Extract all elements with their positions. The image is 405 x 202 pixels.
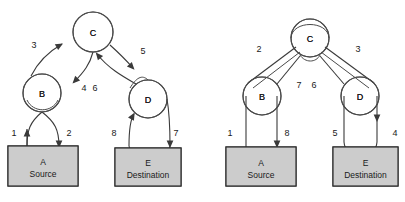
left-edge-number-4: 4: [81, 83, 86, 93]
right-diagram-node-top-sublabel-E: Destination: [344, 170, 387, 180]
right-diagram-node-top-label-A: A: [258, 158, 264, 168]
left-edge-3-arrowhead: [55, 43, 63, 50]
right-edge-number-4: 4: [392, 128, 397, 138]
left-diagram-node-top-sublabel-A: Source: [30, 169, 57, 179]
right-edge-number-1: 1: [227, 128, 232, 138]
left-diagram-node-top-label-A: A: [40, 157, 46, 167]
right-diagram-node-top-label-B: B: [259, 92, 265, 102]
right-edge-number-7: 7: [296, 80, 301, 90]
left-diagram-node-top-label-C: C: [90, 28, 97, 38]
left-diagram-node-top-label-B: B: [39, 89, 45, 99]
left-edge-1-path: [27, 112, 42, 146]
right-edge-number-8: 8: [284, 128, 289, 138]
figure-canvas: ASourceBCDEDestinationASourceBCDEDestina…: [0, 0, 405, 202]
right-edge-2-path-b: [253, 52, 300, 88]
left-diagram-node-top-sublabel-E: Destination: [127, 170, 170, 180]
left-edge-number-1: 1: [11, 128, 16, 138]
right-edge-3-path: [325, 47, 374, 83]
left-edge-7-path: [167, 99, 170, 146]
left-edge-number-5: 5: [140, 46, 145, 56]
left-edge-6-path: [97, 54, 136, 84]
left-edge-number-2: 2: [66, 128, 71, 138]
right-edge-4-arrowhead: [374, 115, 381, 123]
right-edge-number-2: 2: [256, 44, 261, 54]
right-edge-number-3: 3: [355, 44, 360, 54]
right-diagram-node-top-label-C: C: [307, 34, 314, 44]
traversal-diagram-svg: ASourceBCDEDestinationASourceBCDEDestina…: [0, 0, 405, 202]
right-edge-2-path: [248, 47, 296, 83]
left-edge-number-6: 6: [92, 83, 97, 93]
right-edge-3-path-b: [321, 52, 369, 88]
right-diagram-node-top-label-D: D: [357, 92, 364, 102]
left-edge-number-8: 8: [111, 128, 116, 138]
right-diagram-node-top-sublabel-A: Source: [248, 170, 275, 180]
left-edge-number-7: 7: [173, 128, 178, 138]
left-edge-number-3: 3: [31, 40, 36, 50]
left-diagram-node-top-label-D: D: [145, 95, 152, 105]
right-diagram-node-top-label-E: E: [363, 158, 369, 168]
left-diagram-node-top-label-E: E: [145, 158, 151, 168]
right-edge-number-5: 5: [332, 128, 337, 138]
right-edge-number-6: 6: [311, 80, 316, 90]
